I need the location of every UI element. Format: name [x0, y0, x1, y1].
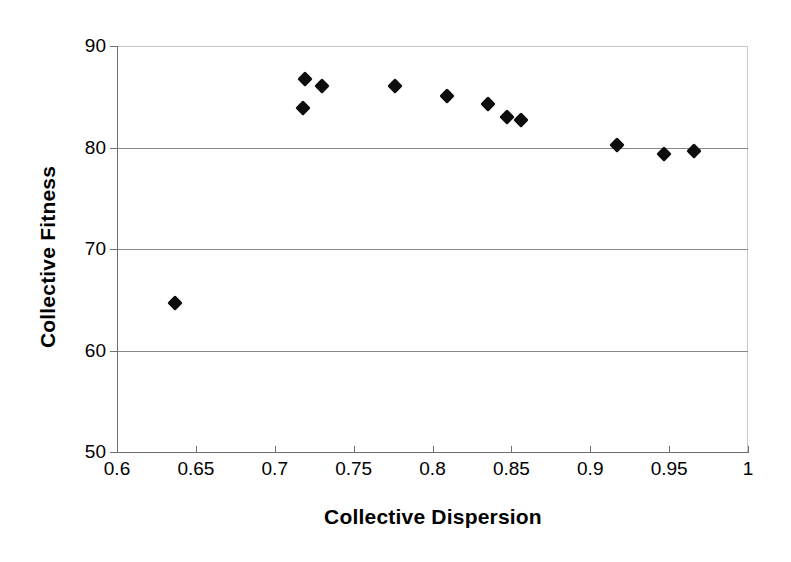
x-axis-tick-label: 0.6	[82, 458, 152, 480]
x-axis-tick-label: 0.85	[476, 458, 546, 480]
y-axis-tick	[110, 148, 117, 149]
y-axis-tick	[110, 46, 117, 47]
y-axis-tick	[110, 351, 117, 352]
gridline-y	[117, 351, 748, 352]
y-axis-tick-label: 90	[62, 35, 106, 57]
y-axis-tick	[110, 452, 117, 453]
y-axis-tick-label: 80	[62, 137, 106, 159]
x-axis-tick-label: 0.7	[240, 458, 310, 480]
x-axis-tick-label: 0.65	[161, 458, 231, 480]
gridline-y	[117, 249, 748, 250]
x-axis-tick	[511, 446, 512, 453]
x-axis-tick	[748, 446, 749, 453]
x-axis-tick-label: 0.75	[319, 458, 389, 480]
gridline-y	[117, 148, 748, 149]
x-axis-tick	[590, 446, 591, 453]
x-axis-tick-label: 0.8	[398, 458, 468, 480]
x-axis-tick	[117, 446, 118, 453]
x-axis-tick-label: 0.95	[634, 458, 704, 480]
y-axis-tick-label: 60	[62, 340, 106, 362]
x-axis-tick	[354, 446, 355, 453]
y-axis-tick	[110, 249, 117, 250]
x-axis-tick-label: 0.9	[555, 458, 625, 480]
plot-area	[117, 46, 748, 452]
x-axis-tick	[275, 446, 276, 453]
x-axis-tick-label: 1	[713, 458, 783, 480]
y-axis-line	[117, 46, 118, 453]
scatter-chart: Collective Fitness 9080706050 Collective…	[0, 0, 791, 562]
x-axis-tick	[196, 446, 197, 453]
x-axis-tick	[669, 446, 670, 453]
plot-border-top	[117, 46, 748, 47]
y-axis-tick-label: 70	[62, 238, 106, 260]
x-axis-tick	[433, 446, 434, 453]
x-axis-title: Collective Dispersion	[117, 505, 749, 529]
